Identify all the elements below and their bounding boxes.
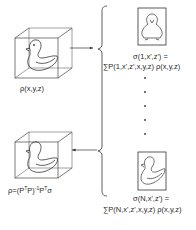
duck-front-view-icon <box>142 14 162 40</box>
projection-N-equation-lhs: σ(N,x',z') = <box>133 194 169 203</box>
reconstruction-cube <box>15 132 72 178</box>
duck-3d-icon <box>26 40 57 71</box>
projection-N-equation-rhs: ∑P(N,x',z',x,y,z) ρ(x,y,z) <box>103 205 181 214</box>
projection-1-equation-rhs: ∑P(1,x',z',x,y,z) ρ(x,y,z) <box>103 62 180 71</box>
reconstruction-formula: ρ=(PTP)-1PTσ <box>8 184 52 195</box>
duck-side-view-icon <box>141 157 165 184</box>
ellipsis-dots <box>144 77 146 135</box>
projection-1-equation-lhs: σ(1,x',z') = <box>133 52 168 61</box>
object-cube <box>15 28 72 78</box>
curly-bracket <box>98 6 107 196</box>
object-label: ρ(x,y,z) <box>20 84 44 93</box>
projection-1-frame <box>138 8 166 45</box>
